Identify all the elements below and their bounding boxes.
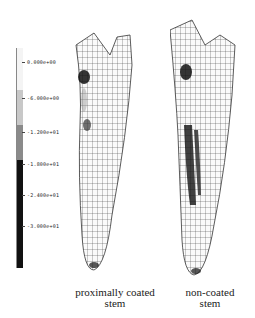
- colorbar-seg-2: [17, 125, 23, 160]
- colorbar-label-1: -6.000e+00: [27, 95, 59, 101]
- proximally-coated-stem-mesh: [72, 15, 157, 280]
- caption-right-line2: stem: [170, 298, 250, 309]
- caption-non-coated: non-coated stem: [170, 287, 250, 309]
- tick: [22, 164, 25, 165]
- caption-left-line2: stem: [55, 298, 175, 309]
- colorbar-label-0: 0.000e+00: [27, 59, 56, 65]
- tick: [22, 132, 25, 133]
- colorbar-label-2: -1.200e+01: [27, 129, 59, 135]
- colorbar-label-3: -1.800e+01: [27, 161, 59, 167]
- colorbar-seg-0: [17, 48, 23, 90]
- caption-proximally-coated: proximally coated stem: [55, 287, 175, 309]
- colorbar-seg-3: [17, 160, 23, 268]
- non-coated-stem-mesh: [170, 15, 255, 285]
- colorbar-seg-1: [17, 90, 23, 125]
- colorbar-label-4: -2.400e+01: [27, 192, 59, 198]
- colorbar-label-5: -3.000e+01: [27, 223, 59, 229]
- tick: [22, 195, 25, 196]
- tick: [22, 226, 25, 227]
- tick: [22, 62, 25, 63]
- colorbar: [16, 48, 23, 268]
- tick: [22, 98, 25, 99]
